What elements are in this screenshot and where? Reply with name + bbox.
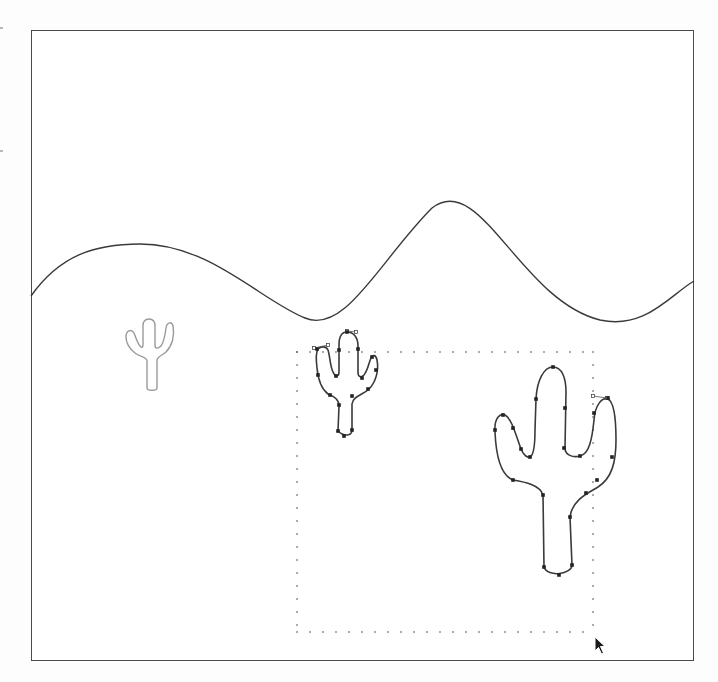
marquee-dot bbox=[592, 455, 593, 456]
anchor-point[interactable] bbox=[595, 478, 599, 482]
marquee-dot bbox=[296, 468, 297, 469]
small-cactus-shape[interactable] bbox=[126, 319, 174, 390]
marquee-dot bbox=[478, 351, 479, 352]
marquee-dot bbox=[517, 631, 518, 632]
anchor-point[interactable] bbox=[528, 455, 532, 459]
anchor-point[interactable] bbox=[334, 374, 338, 378]
anchor-point[interactable] bbox=[366, 387, 370, 391]
anchor-point[interactable] bbox=[337, 348, 341, 352]
middle-cactus-shape[interactable] bbox=[316, 332, 377, 435]
marquee-dot bbox=[569, 631, 570, 632]
marquee-dot bbox=[592, 598, 593, 599]
large-cactus-anchor-points[interactable] bbox=[493, 365, 614, 577]
anchor-point[interactable] bbox=[315, 347, 319, 351]
marquee-dot bbox=[296, 546, 297, 547]
marquee-dot bbox=[374, 351, 375, 352]
anchor-point[interactable] bbox=[337, 403, 341, 407]
marquee-dot bbox=[452, 351, 453, 352]
anchor-point[interactable] bbox=[578, 454, 582, 458]
marquee-dot bbox=[296, 507, 297, 508]
anchor-point[interactable] bbox=[519, 447, 523, 451]
bezier-handle[interactable] bbox=[592, 395, 595, 398]
marquee-dot bbox=[582, 631, 583, 632]
marquee-dot bbox=[296, 585, 297, 586]
anchor-point[interactable] bbox=[557, 573, 561, 577]
marquee-dot bbox=[592, 377, 593, 378]
anchor-point[interactable] bbox=[570, 563, 574, 567]
marquee-dot bbox=[592, 351, 593, 352]
marquee-dot bbox=[296, 442, 297, 443]
anchor-point[interactable] bbox=[356, 347, 360, 351]
marquee-dot bbox=[296, 598, 297, 599]
anchor-point[interactable] bbox=[592, 411, 596, 415]
anchor-point[interactable] bbox=[370, 355, 374, 359]
anchor-point[interactable] bbox=[350, 394, 354, 398]
anchor-point[interactable] bbox=[542, 565, 546, 569]
hills-path[interactable] bbox=[31, 201, 694, 322]
arrow-pointer-icon bbox=[594, 636, 608, 656]
marquee-dot bbox=[309, 631, 310, 632]
marquee-dot bbox=[400, 351, 401, 352]
anchor-point[interactable] bbox=[374, 368, 378, 372]
selection-marquee[interactable] bbox=[296, 351, 593, 632]
marquee-dot bbox=[322, 631, 323, 632]
anchor-point[interactable] bbox=[511, 478, 515, 482]
anchor-point[interactable] bbox=[360, 376, 364, 380]
anchor-point[interactable] bbox=[534, 397, 538, 401]
marquee-dot bbox=[296, 520, 297, 521]
anchor-point[interactable] bbox=[345, 330, 349, 334]
anchor-point[interactable] bbox=[562, 446, 566, 450]
marquee-dot bbox=[592, 546, 593, 547]
anchor-point[interactable] bbox=[342, 434, 346, 438]
marquee-dot bbox=[592, 403, 593, 404]
marquee-dot bbox=[439, 351, 440, 352]
marquee-dot bbox=[296, 429, 297, 430]
marquee-dot bbox=[592, 520, 593, 521]
bezier-handle-line[interactable] bbox=[593, 396, 607, 398]
middle-cactus-anchor-points[interactable] bbox=[313, 330, 378, 438]
anchor-point[interactable] bbox=[501, 413, 505, 417]
drawing-surface[interactable] bbox=[0, 0, 718, 682]
marquee-dot bbox=[517, 351, 518, 352]
marquee-dot bbox=[592, 533, 593, 534]
anchor-point[interactable] bbox=[606, 396, 610, 400]
anchor-point[interactable] bbox=[568, 515, 572, 519]
marquee-dot bbox=[556, 351, 557, 352]
marquee-dot bbox=[439, 631, 440, 632]
anchor-point[interactable] bbox=[541, 493, 545, 497]
anchor-point[interactable] bbox=[610, 455, 614, 459]
anchor-point[interactable] bbox=[563, 406, 567, 410]
marquee-dot bbox=[335, 631, 336, 632]
marquee-dot bbox=[296, 631, 297, 632]
bezier-handle[interactable] bbox=[355, 331, 358, 334]
marquee-dot bbox=[296, 533, 297, 534]
marquee-dot bbox=[361, 631, 362, 632]
anchor-point[interactable] bbox=[350, 428, 354, 432]
marquee-dot bbox=[465, 351, 466, 352]
marquee-dot bbox=[504, 631, 505, 632]
large-cactus-shape[interactable] bbox=[495, 367, 616, 574]
bezier-handle[interactable] bbox=[327, 344, 330, 347]
anchor-point[interactable] bbox=[316, 373, 320, 377]
marquee-dot bbox=[400, 631, 401, 632]
anchor-point[interactable] bbox=[584, 491, 588, 495]
marquee-dot bbox=[592, 390, 593, 391]
anchor-point[interactable] bbox=[511, 426, 515, 430]
marquee-dot bbox=[426, 631, 427, 632]
marquee-dot bbox=[582, 351, 583, 352]
marquee-dot bbox=[478, 631, 479, 632]
marquee-dot bbox=[592, 481, 593, 482]
marquee-dot bbox=[413, 351, 414, 352]
marquee-dot bbox=[348, 351, 349, 352]
marquee-dot bbox=[296, 351, 297, 352]
marquee-dot bbox=[491, 631, 492, 632]
marquee-dot bbox=[543, 631, 544, 632]
anchor-point[interactable] bbox=[551, 365, 555, 369]
anchor-point[interactable] bbox=[493, 428, 497, 432]
anchor-point[interactable] bbox=[336, 429, 340, 433]
anchor-point[interactable] bbox=[328, 393, 332, 397]
marquee-dot bbox=[296, 455, 297, 456]
bezier-handle[interactable] bbox=[313, 347, 316, 350]
marquee-dot bbox=[530, 351, 531, 352]
marquee-dot bbox=[387, 631, 388, 632]
